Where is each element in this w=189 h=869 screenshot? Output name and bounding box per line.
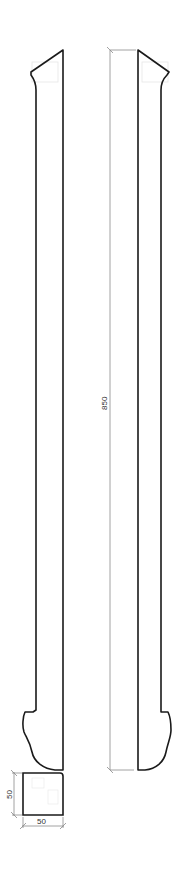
section-height-label: 50 (5, 790, 14, 799)
height-dimension-label: 850 (100, 396, 109, 410)
ghost-guides (32, 62, 168, 82)
section-width-label: 50 (37, 817, 46, 826)
drawing-canvas: 850 50 50 (0, 0, 189, 869)
cross-section-ghost (32, 778, 58, 804)
height-dimension (107, 47, 136, 773)
cross-section-outline (23, 773, 63, 815)
left-profile-outline (23, 50, 63, 770)
right-profile-outline (138, 50, 171, 770)
